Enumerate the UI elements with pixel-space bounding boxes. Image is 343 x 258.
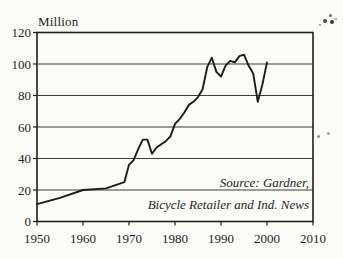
x-tick-label-1980: 1980: [162, 231, 188, 246]
source-annotation-line-2: Bicycle Retailer and Ind. News: [148, 194, 309, 216]
scan-ink-speckle: [330, 20, 334, 24]
x-tick-label-2010: 2010: [300, 231, 326, 246]
source-annotation-line-1: Source: Gardner,: [148, 172, 309, 194]
y-tick-label-120: 120: [12, 25, 32, 40]
source-annotation: Source: Gardner, Bicycle Retailer and In…: [148, 172, 309, 216]
y-tick-label-60: 60: [18, 120, 31, 135]
scan-ink-speckle: [319, 24, 321, 26]
x-tick-label-1950: 1950: [24, 231, 50, 246]
y-tick-label-20: 20: [18, 183, 31, 198]
x-tick-label-1990: 1990: [208, 231, 234, 246]
bicycle-production-line-chart: 1950196019701980199020002010020406080100…: [0, 0, 343, 258]
x-tick-label-1960: 1960: [70, 231, 96, 246]
scan-ink-speckle: [329, 14, 332, 17]
y-tick-label-100: 100: [12, 57, 32, 72]
x-tick-label-2000: 2000: [254, 231, 280, 246]
scan-ink-speckle: [335, 18, 337, 20]
y-tick-label-80: 80: [18, 88, 31, 103]
scan-ink-speckle: [327, 132, 330, 135]
y-tick-label-0: 0: [25, 214, 32, 229]
scanned-chart-page: Million 19501960197019801990200020100204…: [0, 0, 343, 258]
scan-ink-speckle: [317, 135, 320, 138]
y-tick-label-40: 40: [18, 151, 31, 166]
x-tick-label-1970: 1970: [116, 231, 142, 246]
scan-ink-speckle: [323, 19, 327, 23]
